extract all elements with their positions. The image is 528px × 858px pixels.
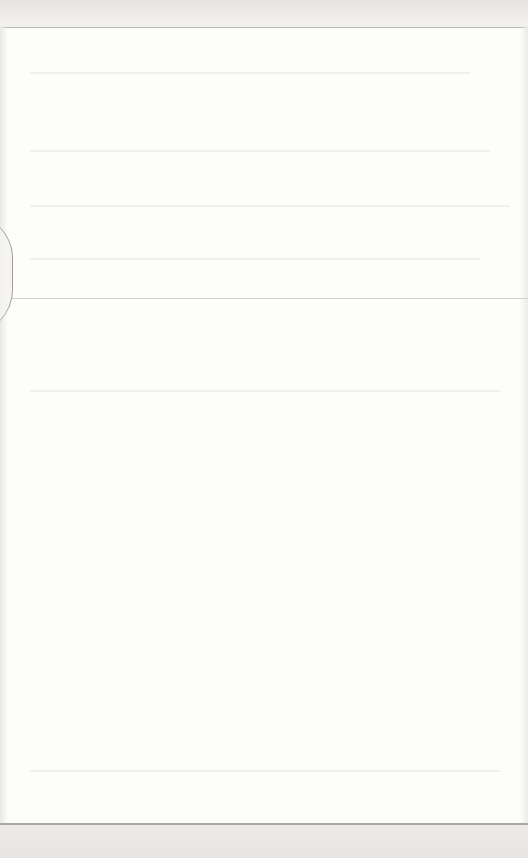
bleed-through-line	[30, 390, 500, 392]
bleed-through-line	[30, 258, 480, 260]
right-scan-shadow	[520, 27, 528, 823]
bleed-through-line	[30, 72, 470, 74]
bleed-through-line	[30, 770, 500, 772]
middle-rule	[12, 298, 528, 299]
bleed-through-line	[30, 150, 490, 152]
bottom-scan-margin	[0, 825, 528, 858]
top-scan-margin	[0, 0, 528, 27]
left-scan-shadow	[0, 27, 8, 823]
top-rule	[0, 27, 528, 28]
bleed-through-line	[30, 205, 510, 207]
